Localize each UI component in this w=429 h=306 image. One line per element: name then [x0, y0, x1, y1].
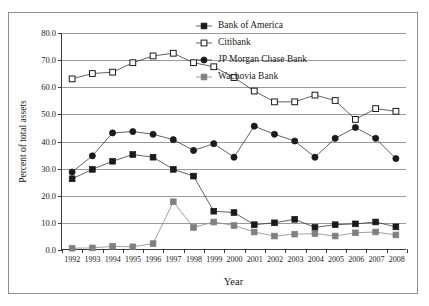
data-point	[109, 130, 115, 136]
data-point	[170, 199, 176, 205]
data-point	[292, 99, 298, 105]
data-point	[373, 106, 379, 112]
series-2	[69, 123, 399, 175]
data-point	[393, 108, 399, 114]
y-tick-label: 40.0	[41, 137, 56, 146]
x-tick-mark	[62, 249, 63, 253]
y-tick-label: 0.0	[45, 246, 56, 255]
series-line	[72, 126, 396, 172]
y-axis-title: Percent of total assets	[16, 33, 30, 250]
data-point	[353, 117, 359, 123]
x-tick-mark	[346, 249, 347, 253]
data-point	[332, 233, 338, 239]
data-point	[231, 223, 237, 229]
data-point	[150, 154, 156, 160]
data-point	[373, 219, 379, 225]
data-point	[272, 99, 278, 105]
data-point	[393, 224, 399, 230]
x-tick-label: 2004	[308, 256, 324, 264]
x-tick-label: 1999	[206, 256, 222, 264]
data-point	[130, 244, 136, 250]
legend-label: Bank of America	[218, 21, 283, 31]
x-tick-mark	[184, 249, 185, 253]
data-point	[352, 124, 358, 130]
data-point	[89, 71, 95, 77]
legend-item: Citibank	[196, 34, 386, 51]
x-tick-mark	[163, 249, 164, 253]
data-point	[150, 53, 156, 59]
data-point	[89, 166, 95, 172]
x-tick-label: 2008	[389, 256, 405, 264]
x-tick-mark	[224, 249, 225, 253]
data-point	[271, 131, 277, 137]
x-tick-mark	[387, 249, 388, 253]
legend-label: JP Morgan Chase Bank	[218, 55, 307, 65]
filled-square-icon	[196, 21, 212, 31]
data-point	[312, 92, 318, 98]
data-point	[69, 76, 75, 82]
x-tick-label: 1997	[166, 256, 182, 264]
data-point	[272, 220, 278, 226]
data-point	[170, 166, 176, 172]
data-point	[89, 245, 95, 251]
data-point	[393, 155, 399, 161]
data-point	[373, 229, 379, 235]
x-tick-mark	[366, 249, 367, 253]
data-point	[353, 221, 359, 227]
filled-circle-icon	[196, 55, 212, 65]
x-tick-label: 2001	[247, 256, 263, 264]
y-tick-label: 50.0	[41, 110, 56, 119]
x-tick-mark	[103, 249, 104, 253]
data-point	[272, 233, 278, 239]
y-tick-label: 70.0	[41, 56, 56, 65]
x-tick-label: 1994	[105, 256, 121, 264]
data-point	[251, 88, 257, 94]
data-point	[130, 128, 136, 134]
x-tick-label: 2003	[287, 256, 303, 264]
x-tick-label: 1995	[125, 256, 141, 264]
data-point	[211, 141, 217, 147]
data-point	[332, 98, 338, 104]
data-point	[211, 208, 217, 214]
y-tick-label: 80.0	[41, 29, 56, 38]
x-tick-label: 2000	[227, 256, 243, 264]
y-tick-label: 10.0	[41, 219, 56, 228]
data-point	[110, 243, 116, 249]
data-point	[190, 147, 196, 153]
chart-figure: Percent of total assets 0.010.020.030.04…	[0, 0, 429, 306]
x-tick-label: 2005	[328, 256, 344, 264]
legend-label: Citibank	[218, 38, 251, 48]
data-point	[231, 154, 237, 160]
data-point	[211, 219, 217, 225]
data-point	[292, 216, 298, 222]
data-point	[332, 135, 338, 141]
x-tick-mark	[204, 249, 205, 253]
x-tick-mark	[407, 249, 408, 253]
data-point	[251, 229, 257, 235]
series-0	[69, 152, 399, 231]
data-point	[191, 173, 197, 179]
x-tick-label: 1996	[145, 256, 161, 264]
x-tick-mark	[245, 249, 246, 253]
x-tick-mark	[123, 249, 124, 253]
data-point	[170, 50, 176, 56]
x-tick-mark	[82, 249, 83, 253]
data-point	[69, 176, 75, 182]
data-point	[69, 169, 75, 175]
x-tick-label: 2002	[267, 256, 283, 264]
data-point	[373, 135, 379, 141]
data-point	[89, 153, 95, 159]
data-point	[292, 138, 298, 144]
y-tick-label: 60.0	[41, 83, 56, 92]
x-tick-mark	[306, 249, 307, 253]
x-tick-mark	[326, 249, 327, 253]
legend-label: Wachovia Bank	[218, 72, 278, 82]
legend-item: Bank of America	[196, 17, 386, 34]
data-point	[130, 152, 136, 158]
chart-legend: Bank of AmericaCitibankJP Morgan Chase B…	[196, 17, 386, 85]
data-point	[130, 60, 136, 66]
x-tick-label: 1998	[186, 256, 202, 264]
x-tick-label: 1992	[64, 256, 80, 264]
y-tick-label: 20.0	[41, 192, 56, 201]
data-point	[312, 231, 318, 237]
